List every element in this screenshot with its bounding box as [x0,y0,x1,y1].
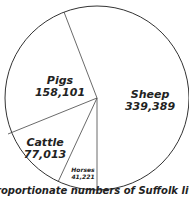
cattle-value: 77,013 [20,149,70,161]
horses-value: 41,221 [66,174,100,181]
slice-label-cattle: Cattle 77,013 [20,137,70,161]
chart-caption: roportionate numbers of Suffolk live s [0,185,189,196]
pigs-value: 158,101 [30,87,90,99]
sheep-value: 339,389 [120,101,180,113]
slice-label-horses: Horses 41,221 [66,167,100,180]
slice-label-sheep: Sheep 339,389 [120,89,180,113]
slice-label-pigs: Pigs 158,101 [30,75,90,99]
